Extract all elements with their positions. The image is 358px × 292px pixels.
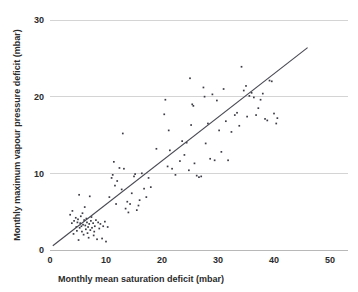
data-point <box>181 140 183 142</box>
data-point <box>241 66 243 68</box>
data-point <box>69 214 71 216</box>
data-point <box>93 235 95 237</box>
data-point <box>105 241 107 243</box>
data-point <box>133 176 135 178</box>
data-point <box>257 107 259 109</box>
data-point <box>81 231 83 233</box>
data-point <box>100 223 102 225</box>
data-point <box>95 219 97 221</box>
data-point <box>238 125 240 127</box>
data-point <box>227 159 229 161</box>
data-points-group <box>69 66 278 243</box>
data-point <box>81 225 83 227</box>
data-point <box>114 185 116 187</box>
data-point <box>163 113 165 115</box>
x-tick-label-10: 10 <box>101 255 111 265</box>
data-point <box>209 158 211 160</box>
data-point <box>78 194 80 196</box>
data-point <box>119 167 121 169</box>
data-point <box>84 206 86 208</box>
y-tick-labels-group: 0102030 <box>34 15 44 255</box>
data-point <box>212 94 214 96</box>
data-point <box>125 208 127 210</box>
data-point <box>86 222 88 224</box>
data-point <box>169 149 171 151</box>
data-point <box>243 90 245 92</box>
data-point <box>145 196 147 198</box>
x-tick-labels-group: 01020304050 <box>47 255 335 265</box>
data-point <box>223 88 225 90</box>
data-point <box>249 95 251 97</box>
data-point <box>175 174 177 176</box>
data-point <box>89 229 91 231</box>
data-point <box>73 220 75 222</box>
data-point <box>190 124 192 126</box>
regression-line <box>53 48 308 246</box>
data-point <box>141 172 143 174</box>
data-point <box>92 222 94 224</box>
data-point <box>171 168 173 170</box>
data-point <box>275 123 277 125</box>
data-point <box>75 217 77 219</box>
data-point <box>121 189 123 191</box>
data-point <box>273 113 275 115</box>
data-point <box>122 133 124 135</box>
data-point <box>88 223 90 225</box>
x-tick-label-50: 50 <box>325 255 335 265</box>
data-point <box>87 232 89 234</box>
y-tick-label-10: 10 <box>34 169 44 179</box>
data-point <box>94 225 96 227</box>
data-point <box>150 186 152 188</box>
data-point <box>269 80 271 82</box>
data-point <box>93 231 95 233</box>
data-point <box>191 103 193 105</box>
y-tick-label-30: 30 <box>34 15 44 25</box>
data-point <box>96 238 98 240</box>
data-point <box>104 221 106 223</box>
data-point <box>111 177 113 179</box>
data-point <box>246 116 248 118</box>
data-point <box>116 180 118 182</box>
data-point <box>79 227 81 229</box>
data-point <box>123 168 125 170</box>
data-point <box>107 226 109 228</box>
data-point <box>113 161 115 163</box>
data-point <box>193 105 195 107</box>
data-point <box>71 222 73 224</box>
data-point <box>76 230 78 232</box>
data-point <box>236 112 238 114</box>
data-point <box>126 201 128 203</box>
data-point <box>82 212 84 214</box>
data-point <box>97 222 99 224</box>
data-point <box>83 234 85 236</box>
data-point <box>214 159 216 161</box>
x-axis-title: Monthly mean saturation deficit (mbar) <box>58 274 224 284</box>
data-point <box>115 203 117 205</box>
data-point <box>262 93 264 95</box>
data-point <box>218 130 220 132</box>
data-point <box>77 222 79 224</box>
y-tick-label-20: 20 <box>34 92 44 102</box>
data-point <box>225 120 227 122</box>
data-point <box>188 169 190 171</box>
data-point <box>266 120 268 122</box>
x-tick-label-40: 40 <box>269 255 279 265</box>
data-point <box>87 226 89 228</box>
data-point <box>72 210 74 212</box>
data-point <box>73 233 75 235</box>
gridlines-group <box>50 20 348 173</box>
data-point <box>167 166 169 168</box>
data-point <box>138 205 140 207</box>
data-point <box>271 80 273 82</box>
data-point <box>90 220 92 222</box>
data-point <box>134 173 136 175</box>
x-tick-label-0: 0 <box>47 255 52 265</box>
data-point <box>89 195 91 197</box>
x-tick-label-30: 30 <box>213 255 223 265</box>
data-point <box>148 177 150 179</box>
data-point <box>168 130 170 132</box>
data-point <box>264 118 266 120</box>
data-point <box>88 237 90 239</box>
data-point <box>85 228 87 230</box>
scatter-plot-svg: 01020304050 0102030 Monthly mean saturat… <box>0 0 358 292</box>
